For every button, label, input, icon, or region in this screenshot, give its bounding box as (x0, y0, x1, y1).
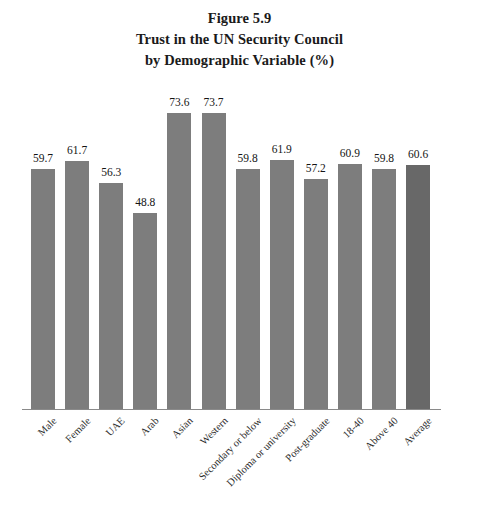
bar (372, 169, 396, 409)
bar-value-label: 73.7 (184, 96, 244, 108)
bar (270, 160, 294, 409)
bar-value-label: 56.3 (81, 166, 141, 178)
x-axis-label: Arab (138, 415, 161, 438)
bar (304, 179, 328, 409)
bar (133, 213, 157, 409)
x-axis-label: Average (401, 415, 433, 447)
x-axis-label: Asian (170, 415, 195, 440)
bar (31, 169, 55, 409)
bar-value-label: 61.7 (47, 144, 107, 156)
bar-column (65, 0, 89, 409)
x-axis-label: Male (36, 415, 59, 438)
bar-series: 59.761.756.348.873.673.759.861.957.260.9… (0, 0, 479, 409)
x-axis-label: Secondary or below (196, 415, 263, 482)
bar-column (31, 0, 55, 409)
bar-column (406, 0, 430, 409)
x-axis-label: Western (197, 415, 229, 447)
bar-value-label: 48.8 (115, 196, 175, 208)
bar-column (338, 0, 362, 409)
chart-plot-area: 59.761.756.348.873.673.759.861.957.260.9… (0, 0, 479, 509)
bar-column (372, 0, 396, 409)
bar-value-label: 60.6 (388, 148, 448, 160)
bar (338, 164, 362, 409)
x-axis-label: 18-40 (341, 415, 366, 440)
bar-value-label: 61.9 (252, 143, 312, 155)
bar (65, 161, 89, 409)
bar (167, 113, 191, 409)
bar-column (202, 0, 226, 409)
bar-column (270, 0, 294, 409)
x-axis-label: UAE (104, 415, 127, 438)
x-axis-label: Above 40 (363, 415, 400, 452)
bar (406, 165, 430, 409)
x-axis-category-labels: MaleFemaleUAEArabAsianWesternSecondary o… (0, 409, 479, 509)
bar-value-label: 57.2 (286, 162, 346, 174)
bar-column (167, 0, 191, 409)
bar-column (304, 0, 328, 409)
bar (236, 169, 260, 409)
x-axis-label: Female (63, 415, 93, 445)
bar (99, 183, 123, 409)
bar-column (236, 0, 260, 409)
